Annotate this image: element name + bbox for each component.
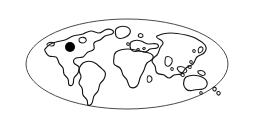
- oval-globe-frame: [26, 19, 228, 109]
- world-map-graphic: [0, 0, 254, 128]
- world-map-logo: World Map Globe Logo Oval world map outl…: [0, 0, 254, 128]
- location-marker-dot[interactable]: [65, 42, 75, 52]
- new-zealand-outline: [213, 87, 220, 95]
